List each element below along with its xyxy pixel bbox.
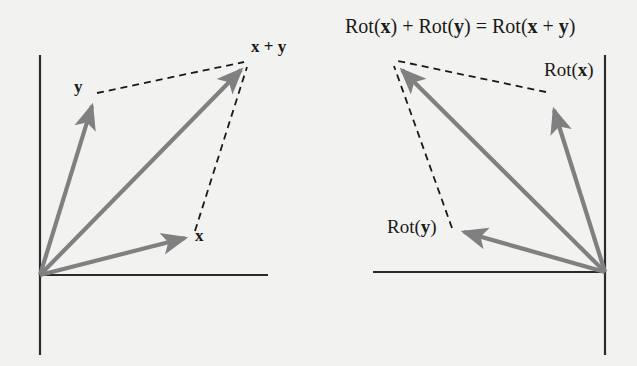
- figure-background: [0, 0, 637, 366]
- label-vector-x-plus-y: x + y: [251, 38, 286, 55]
- vector-rotation-figure: y x + y x Rot(x) + Rot(y) = Rot(x + y) R…: [0, 0, 637, 366]
- label-vector-rot-x: Rot(x): [544, 60, 594, 79]
- label-vector-x: x: [195, 227, 204, 244]
- label-vector-y: y: [74, 78, 83, 95]
- label-rotation-linearity-equation: Rot(x) + Rot(y) = Rot(x + y): [345, 16, 576, 36]
- figure-canvas: [0, 0, 637, 366]
- label-vector-rot-y: Rot(y): [387, 217, 437, 236]
